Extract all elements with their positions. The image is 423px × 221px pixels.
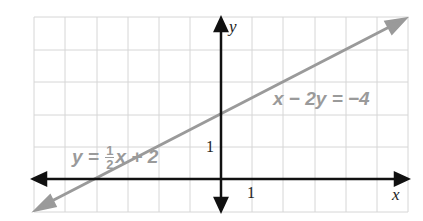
x-axis-arrow-right-icon (395, 173, 408, 185)
y-tick-label: 1 (206, 138, 214, 156)
fraction-denominator: 2 (105, 158, 114, 171)
x-tick-label: 1 (247, 184, 255, 202)
eq1-rhs: x + 2 (115, 146, 158, 167)
equation-slope-intercept: y = 12x + 2 (72, 144, 158, 171)
x-axis-arrow-left-icon (33, 173, 46, 185)
equation-standard-form: x − 2y = −4 (273, 88, 370, 110)
line-arrow-right-icon (386, 19, 405, 33)
x-axis-label: x (392, 185, 400, 205)
y-axis-label: y (229, 17, 237, 37)
eq1-lhs: y = (72, 146, 104, 167)
fraction-numerator: 1 (105, 144, 114, 158)
y-axis-arrow-up-icon (215, 18, 227, 31)
line-arrow-left-icon (36, 196, 55, 210)
fraction-one-half: 12 (105, 144, 114, 171)
y-axis-arrow-down-icon (215, 198, 227, 211)
coordinate-graph (0, 0, 423, 221)
